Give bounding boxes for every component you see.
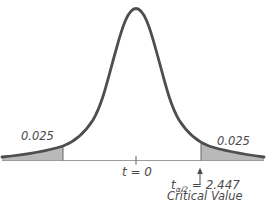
t-distribution-figure: 0.025 0.025 t = 0 tα/2 = 2.447 Critical … xyxy=(0,0,267,217)
left-tail-area-label: 0.025 xyxy=(21,131,54,143)
critical-value-caption: Critical Value xyxy=(167,191,243,203)
center-tick-label: t = 0 xyxy=(114,166,160,178)
right-tail-area-label: 0.025 xyxy=(217,136,250,148)
